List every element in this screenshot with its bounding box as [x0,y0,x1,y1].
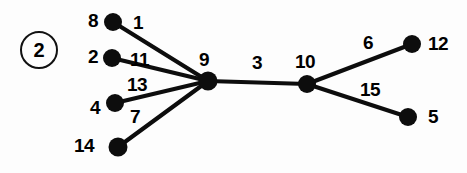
graph-edge [208,81,307,84]
graph-node [399,108,417,126]
graph-node [106,94,124,112]
vertex-label: 12 [428,34,448,53]
vertex-label: 9 [199,50,209,69]
figure-number-badge: 2 [20,31,58,69]
graph-node [104,13,122,31]
graph-svg [0,0,467,173]
vertex-label: 5 [428,107,438,126]
edge-weight-label: 1 [133,13,143,32]
graph-edge [113,22,208,81]
vertex-label: 4 [90,98,100,117]
graph-node [298,75,316,93]
edge-weight-label: 15 [360,80,380,99]
graph-edge [307,44,412,84]
graph-node [199,72,218,91]
graph-node [403,35,421,53]
vertex-label: 10 [295,52,315,71]
figure-canvas: 2 82414910125 1111373615 [0,0,467,173]
edge-weight-label: 7 [130,107,140,126]
graph-edge [307,84,408,117]
vertex-label: 14 [74,136,94,155]
edge-weight-label: 13 [127,75,147,94]
edge-weight-label: 3 [252,53,262,72]
edge-weight-label: 11 [130,50,149,69]
vertex-label: 8 [88,11,98,30]
graph-node [109,138,128,157]
vertex-label: 2 [88,47,98,66]
graph-node [103,49,121,67]
edge-weight-label: 6 [363,33,373,52]
